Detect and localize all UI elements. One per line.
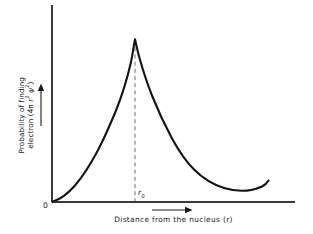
probability-curve [53,39,269,202]
x-axis-direction-arrow-icon [152,207,193,213]
origin-label: 0 [43,201,48,210]
plot-area [0,0,313,234]
r0-label-subscript: 0 [141,193,144,199]
r0-label: r0 [138,188,145,197]
radial-probability-figure: Probability of finding electron (4π r2 ψ… [0,0,313,234]
x-axis-label: Distance from the nucleus (r) [52,215,295,224]
y-axis-direction-arrow-icon [38,84,44,127]
